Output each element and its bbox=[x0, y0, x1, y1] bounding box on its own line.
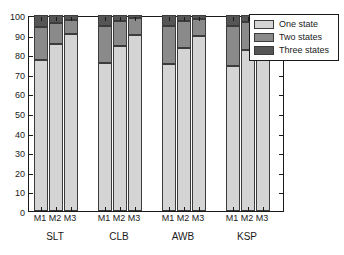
x-tick-mark bbox=[41, 17, 42, 21]
bar-segment-two-states bbox=[192, 19, 206, 36]
legend-swatch bbox=[254, 33, 274, 42]
x-group-label-clb: CLB bbox=[109, 232, 128, 242]
bar-segment-one-state bbox=[162, 64, 176, 211]
x-tick-mark bbox=[233, 207, 234, 211]
bar-segment-one-state bbox=[226, 66, 240, 211]
y-tick-label: 70 bbox=[15, 71, 25, 80]
bar-segment-one-state bbox=[192, 36, 206, 211]
x-tick-mark bbox=[41, 207, 42, 211]
bar-segment-one-state bbox=[34, 60, 48, 211]
y-tick-label: 60 bbox=[15, 91, 25, 100]
x-sub-label: M1 bbox=[226, 214, 239, 223]
x-tick-mark bbox=[105, 17, 106, 21]
y-tick-label: 10 bbox=[15, 189, 25, 198]
x-tick-mark bbox=[199, 17, 200, 21]
x-tick-mark bbox=[56, 207, 57, 211]
bar-segment-one-state bbox=[128, 35, 142, 211]
x-tick-mark bbox=[71, 17, 72, 21]
x-sub-label: M2 bbox=[177, 214, 190, 223]
x-group-label-awb: AWB bbox=[172, 232, 194, 242]
bar-segment-two-states bbox=[34, 27, 48, 60]
y-tick-label: 90 bbox=[15, 32, 25, 41]
bar-segment-two-states bbox=[113, 21, 127, 46]
x-sub-label: M3 bbox=[128, 214, 141, 223]
y-tick-label: 30 bbox=[15, 150, 25, 159]
y-tick-label: 80 bbox=[15, 52, 25, 61]
x-tick-mark bbox=[169, 17, 170, 21]
x-tick-mark bbox=[184, 17, 185, 21]
legend-item-one-state[interactable]: One state bbox=[254, 18, 335, 31]
x-sub-label: M1 bbox=[34, 214, 47, 223]
x-tick-mark bbox=[169, 207, 170, 211]
y-tick-label: 20 bbox=[15, 169, 25, 178]
bar-segment-two-states bbox=[64, 20, 78, 34]
bars-layer bbox=[29, 17, 283, 211]
y-tick-label: 40 bbox=[15, 130, 25, 139]
y-tick-label: 100 bbox=[10, 13, 25, 22]
bar-segment-one-state bbox=[241, 50, 255, 211]
legend-label: Two states bbox=[279, 33, 322, 42]
bar-segment-one-state bbox=[64, 34, 78, 211]
legend-item-three-states[interactable]: Three states bbox=[254, 44, 335, 57]
x-sub-label: M3 bbox=[192, 214, 205, 223]
x-tick-mark bbox=[56, 17, 57, 21]
x-sub-label: M2 bbox=[49, 214, 62, 223]
x-tick-mark bbox=[135, 207, 136, 211]
bar-segment-one-state bbox=[49, 44, 63, 211]
x-tick-mark bbox=[263, 207, 264, 211]
y-tick-label: 0 bbox=[20, 209, 25, 218]
x-tick-mark bbox=[105, 207, 106, 211]
x-tick-mark bbox=[135, 17, 136, 21]
legend-swatch bbox=[254, 46, 274, 55]
legend-label: One state bbox=[279, 20, 318, 29]
stacked-bar-chart-figure: 0102030405060708090100 M1M2M3SLTM1M2M3CL… bbox=[0, 0, 344, 255]
bar-segment-one-state bbox=[113, 46, 127, 211]
x-group-label-slt: SLT bbox=[46, 232, 64, 242]
plot-area: 0102030405060708090100 bbox=[28, 16, 284, 212]
x-tick-mark bbox=[248, 207, 249, 211]
x-tick-mark bbox=[184, 207, 185, 211]
x-sub-label: M3 bbox=[64, 214, 77, 223]
x-tick-mark bbox=[120, 17, 121, 21]
bar-segment-two-states bbox=[98, 26, 112, 63]
x-tick-mark bbox=[199, 207, 200, 211]
bar-segment-one-state bbox=[177, 48, 191, 211]
x-sub-label: M2 bbox=[241, 214, 254, 223]
x-sub-label: M3 bbox=[256, 214, 269, 223]
legend-label: Three states bbox=[279, 46, 329, 55]
bar-segment-two-states bbox=[226, 26, 240, 66]
bar-segment-two-states bbox=[162, 26, 176, 64]
legend-swatch bbox=[254, 20, 274, 29]
x-group-label-ksp: KSP bbox=[237, 232, 257, 242]
bar-segment-one-state bbox=[98, 63, 112, 211]
x-sub-label: M1 bbox=[98, 214, 111, 223]
x-tick-mark bbox=[71, 207, 72, 211]
bar-segment-one-state bbox=[256, 38, 270, 211]
x-tick-mark bbox=[233, 17, 234, 21]
x-sub-label: M1 bbox=[162, 214, 175, 223]
legend-item-two-states[interactable]: Two states bbox=[254, 31, 335, 44]
chart-legend: One stateTwo statesThree states bbox=[249, 14, 339, 61]
y-tick-label: 50 bbox=[15, 111, 25, 120]
bar-segment-two-states bbox=[177, 21, 191, 48]
x-sub-label: M2 bbox=[113, 214, 126, 223]
bar-segment-two-states bbox=[49, 23, 63, 45]
x-tick-mark bbox=[120, 207, 121, 211]
